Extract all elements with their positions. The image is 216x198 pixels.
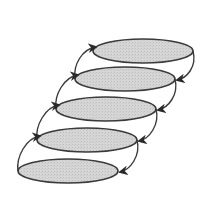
ellipse-layer-3 xyxy=(56,97,156,121)
ellipse-layer-4 xyxy=(37,128,137,152)
ellipse-layer-5 xyxy=(18,159,118,183)
stacked-cycle-diagram xyxy=(0,0,216,198)
ellipse-layer-2 xyxy=(75,67,175,91)
ellipse-layer-1 xyxy=(93,39,193,63)
